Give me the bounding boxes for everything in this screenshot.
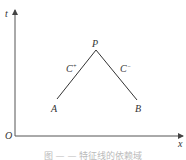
point-a-label: A (50, 103, 58, 114)
c-minus-label: C− (120, 63, 131, 74)
t-axis-label: t (5, 8, 8, 19)
point-b-label: B (135, 103, 141, 114)
characteristics-diagram: t x O P A B C+ C− 图 — — 特征线的依赖域 (0, 0, 186, 160)
figure-caption: 图 — — 特征线的依赖域 (44, 150, 143, 160)
point-p-label: P (91, 38, 98, 49)
origin-label: O (5, 130, 12, 141)
x-axis-label: x (177, 138, 183, 149)
c-minus-line (96, 50, 137, 100)
c-plus-label: C+ (66, 63, 77, 74)
c-plus-line (57, 50, 96, 99)
